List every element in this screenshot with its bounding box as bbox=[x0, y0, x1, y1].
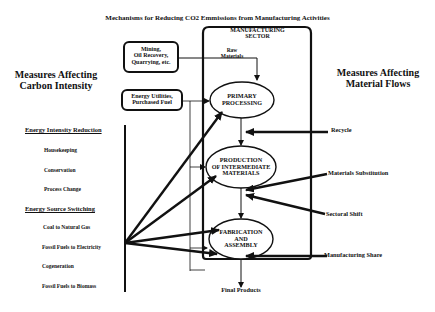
measure-sectoral-shift: Sectoral Shift bbox=[326, 211, 363, 218]
measure-coal-to-gas: Coal to Natural Gas bbox=[43, 225, 90, 231]
energy-source-switching-heading: Energy Source Switching bbox=[25, 206, 95, 213]
production-line3: MATERIALS bbox=[204, 170, 278, 177]
energy-label: Energy Utilities, Purchased Fuel bbox=[122, 93, 182, 106]
measure-fossil-to-electricity: Fossil Fuels to Electricity bbox=[42, 245, 101, 251]
measure-cogeneration: Cogeneration bbox=[42, 264, 74, 270]
measure-materials-substitution: Materials Substitution bbox=[328, 170, 388, 177]
energy-intensity-reduction-heading: Energy Intensity Reduction bbox=[25, 127, 102, 134]
raw-materials-label: Raw Materials bbox=[212, 48, 252, 60]
measure-housekeeping: Housekeeping bbox=[44, 148, 77, 154]
right-heading-line2: Material Flows bbox=[332, 79, 424, 90]
sector-label-line2: SECTOR bbox=[210, 33, 305, 39]
primary-line2: PROCESSING bbox=[210, 100, 274, 107]
diagram-title: Mechanisms for Reducing CO2 Emmissions f… bbox=[0, 15, 435, 22]
primary-processing-label: PRIMARY PROCESSING bbox=[210, 93, 274, 106]
right-heading: Measures Affecting Material Flows bbox=[332, 68, 424, 89]
measure-recycle: Recycle bbox=[331, 127, 352, 134]
sector-label: MANUFACTURING SECTOR bbox=[210, 27, 305, 40]
measure-manufacturing-share: Manufacturing Share bbox=[324, 252, 382, 259]
left-heading: Measures Affecting Carbon Intensity bbox=[10, 70, 102, 91]
raw-materials-line2: Materials bbox=[212, 54, 252, 60]
left-heading-line2: Carbon Intensity bbox=[10, 81, 102, 92]
production-label: PRODUCTION OF INTERMEDIATE MATERIALS bbox=[204, 157, 278, 177]
final-products-label: Final Products bbox=[214, 287, 268, 294]
fabrication-label: FABRICATION AND ASSEMBLY bbox=[209, 229, 273, 249]
measure-process-change: Process Change bbox=[44, 187, 81, 193]
measure-conservation: Conservation bbox=[44, 168, 75, 174]
mining-label-line3: Quarrying, etc. bbox=[124, 59, 178, 65]
energy-label-line2: Purchased Fuel bbox=[122, 99, 182, 105]
mining-label: Mining, Oil Recovery, Quarrying, etc. bbox=[124, 46, 178, 65]
left-heading-line1: Measures Affecting bbox=[10, 70, 102, 81]
fabrication-line3: ASSEMBLY bbox=[209, 242, 273, 249]
measure-fossil-to-biomass: Fossil Fuels to Biomass bbox=[42, 284, 96, 290]
right-heading-line1: Measures Affecting bbox=[332, 68, 424, 79]
